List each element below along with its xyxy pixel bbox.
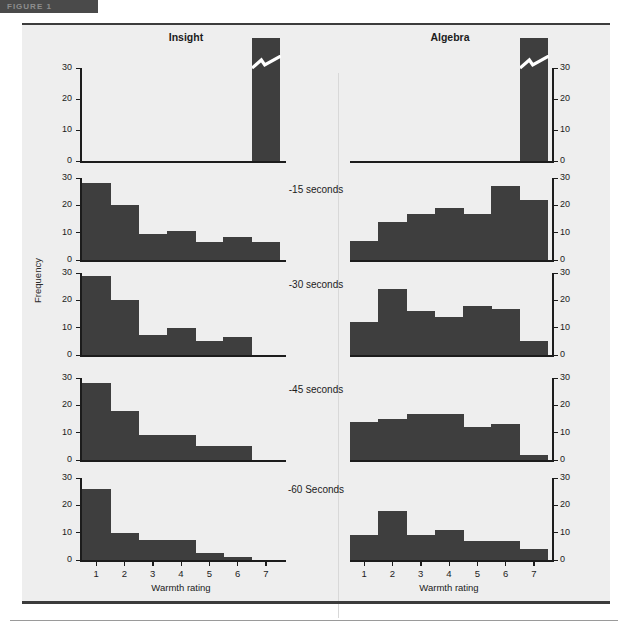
histogram-bar — [223, 446, 252, 460]
y-axis-line — [552, 178, 554, 262]
y-axis-tick — [554, 560, 558, 561]
y-axis-tick-label: 10 — [54, 528, 72, 537]
x-axis-tick — [449, 562, 450, 566]
y-axis-tick-label: 20 — [560, 200, 578, 209]
x-axis-tick-label: 4 — [174, 568, 188, 579]
histogram-bar — [520, 455, 549, 460]
x-axis-tick — [96, 562, 97, 566]
x-axis-tick — [181, 562, 182, 566]
y-axis-tick-label: 20 — [54, 295, 72, 304]
y-axis-tick — [554, 405, 558, 406]
x-axis-tick — [477, 562, 478, 566]
y-axis-tick-label: 20 — [54, 500, 72, 509]
histogram-bar — [463, 306, 492, 355]
histogram-bar — [407, 311, 436, 355]
histogram-bar — [520, 38, 549, 161]
y-axis-tick-label: 20 — [560, 94, 578, 103]
histogram-bar — [139, 435, 168, 460]
y-axis-line — [80, 68, 82, 163]
row-time-label: -30 seconds — [256, 279, 376, 290]
y-axis-tick — [554, 232, 558, 233]
y-axis-tick-label: 10 — [54, 323, 72, 332]
y-axis-tick — [554, 327, 558, 328]
y-axis-tick — [554, 378, 558, 379]
x-axis-tick — [152, 562, 153, 566]
y-axis-tick — [554, 273, 558, 274]
histogram-bar — [350, 241, 379, 260]
y-axis-tick-label: 20 — [560, 295, 578, 304]
y-axis-tick-label: 20 — [54, 400, 72, 409]
x-axis-tick — [364, 562, 365, 566]
y-axis-tick — [76, 260, 80, 261]
y-axis-tick — [554, 300, 558, 301]
y-axis-tick-label: 10 — [54, 125, 72, 134]
y-axis-tick-label: 10 — [54, 228, 72, 237]
y-axis-line — [552, 478, 554, 562]
x-axis-tick — [265, 562, 266, 566]
figure-bottom-rule — [22, 601, 610, 604]
x-axis-line — [82, 560, 286, 562]
histogram-bar — [350, 535, 379, 560]
y-axis-tick-label: 20 — [54, 200, 72, 209]
histogram-bar — [463, 427, 492, 460]
y-axis-tick-label: 0 — [560, 350, 578, 359]
y-axis-tick-label: 30 — [560, 373, 578, 382]
y-axis-tick-label: 0 — [54, 156, 72, 165]
x-axis-line — [82, 161, 286, 163]
y-axis-tick-label: 10 — [54, 428, 72, 437]
histogram-bar — [110, 533, 139, 560]
histogram-bar — [252, 242, 281, 260]
y-axis-tick — [76, 560, 80, 561]
y-axis-tick — [554, 460, 558, 461]
x-axis-tick-label: 7 — [527, 568, 541, 579]
y-axis-tick — [76, 68, 80, 69]
x-axis-tick-label: 5 — [470, 568, 484, 579]
histogram-bar — [435, 530, 464, 560]
x-axis-tick-label: 5 — [202, 568, 216, 579]
y-axis-tick — [76, 378, 80, 379]
x-axis-tick-label: 3 — [414, 568, 428, 579]
histogram-bar — [139, 540, 168, 561]
x-axis-tick-label: 6 — [231, 568, 245, 579]
y-axis-tick-label: 10 — [560, 528, 578, 537]
y-axis-tick — [554, 532, 558, 533]
x-axis-line — [350, 355, 554, 357]
histogram-bar — [195, 553, 224, 560]
y-axis-tick — [76, 99, 80, 100]
y-axis-tick-label: 30 — [54, 473, 72, 482]
histogram-bar — [435, 208, 464, 260]
y-axis-tick-label: 30 — [560, 473, 578, 482]
row-time-label: -45 seconds — [256, 384, 376, 395]
histogram-bar — [167, 540, 196, 561]
x-axis-tick-label: 1 — [89, 568, 103, 579]
y-axis-tick — [76, 532, 80, 533]
x-axis-tick-label: 6 — [499, 568, 513, 579]
y-axis-tick-label: 20 — [54, 94, 72, 103]
x-axis-tick — [533, 562, 534, 566]
histogram-bar — [167, 435, 196, 460]
y-axis-tick — [76, 478, 80, 479]
histogram-bar — [378, 511, 407, 560]
histogram-bar — [82, 183, 111, 260]
y-axis-line — [552, 68, 554, 163]
histogram-bar — [139, 234, 168, 260]
y-axis-tick-label: 30 — [54, 268, 72, 277]
y-axis-tick — [554, 260, 558, 261]
figure-header-tab: FIGURE 1 — [0, 0, 98, 13]
y-axis-tick-label: 0 — [560, 255, 578, 264]
x-axis-tick — [420, 562, 421, 566]
y-axis-tick — [554, 205, 558, 206]
histogram-bar — [463, 541, 492, 560]
x-axis-line — [350, 260, 554, 262]
x-axis-line — [82, 260, 286, 262]
y-axis-tick-label: 30 — [560, 268, 578, 277]
figure-page: FIGURE 1 Insight Algebra Frequency 01020… — [0, 0, 628, 628]
y-axis-tick-label: 0 — [54, 555, 72, 564]
x-axis-tick — [392, 562, 393, 566]
y-axis-line — [552, 378, 554, 462]
histogram-bar — [491, 424, 520, 460]
histogram-bar — [491, 309, 520, 355]
x-axis-line — [350, 460, 554, 462]
y-axis-tick — [76, 205, 80, 206]
x-axis-tick-label: 1 — [357, 568, 371, 579]
